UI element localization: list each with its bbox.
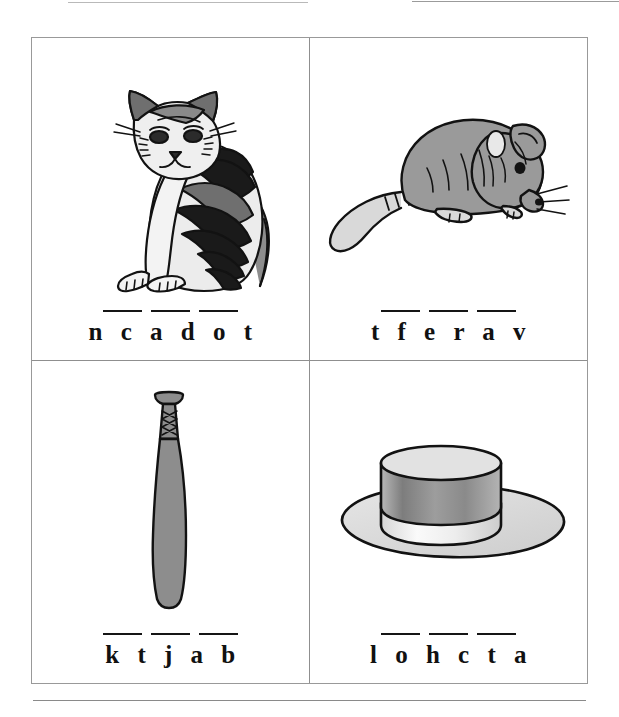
- answer-blank[interactable]: [381, 633, 420, 635]
- answer-blank[interactable]: [429, 310, 468, 312]
- answer-blank[interactable]: [429, 633, 468, 635]
- worksheet-item-rat[interactable]: t f e r a v: [310, 38, 588, 361]
- scrambled-word: t f e r a v: [365, 319, 532, 344]
- cat-illustration: [32, 38, 309, 310]
- answer-area: k t j a b: [99, 633, 241, 683]
- worksheet-grid: n c a d o t: [31, 37, 588, 684]
- answer-blank[interactable]: [199, 310, 238, 312]
- answer-area: l o h c t a: [364, 633, 533, 683]
- answer-blank[interactable]: [151, 633, 190, 635]
- answer-blank[interactable]: [381, 310, 420, 312]
- answer-blank[interactable]: [151, 310, 190, 312]
- answer-blank[interactable]: [103, 633, 142, 635]
- hat-illustration: [310, 361, 588, 634]
- worksheet-item-cat[interactable]: n c a d o t: [32, 38, 310, 361]
- answer-blanks[interactable]: [381, 310, 516, 312]
- worksheet-item-hat[interactable]: l o h c t a: [310, 361, 588, 684]
- top-rule-left: [68, 2, 308, 3]
- bottom-rule: [33, 700, 586, 701]
- worksheet-item-bat[interactable]: k t j a b: [32, 361, 310, 684]
- scrambled-word: k t j a b: [99, 642, 241, 667]
- baseball-bat-illustration: [32, 361, 309, 634]
- answer-blanks[interactable]: [381, 633, 516, 635]
- top-partial-rules: [0, 0, 619, 6]
- top-rule-right: [412, 1, 619, 2]
- scrambled-word: l o h c t a: [364, 642, 533, 667]
- rat-illustration: [310, 38, 588, 310]
- answer-area: n c a d o t: [83, 310, 258, 360]
- answer-blank[interactable]: [477, 310, 516, 312]
- answer-blank[interactable]: [477, 633, 516, 635]
- answer-blanks[interactable]: [103, 633, 238, 635]
- answer-blank[interactable]: [103, 310, 142, 312]
- answer-blanks[interactable]: [103, 310, 238, 312]
- scrambled-word: n c a d o t: [83, 319, 258, 344]
- answer-area: t f e r a v: [365, 310, 532, 360]
- answer-blank[interactable]: [199, 633, 238, 635]
